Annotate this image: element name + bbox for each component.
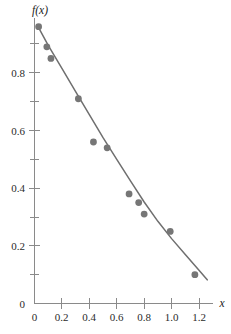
- x-axis-title: x: [218, 297, 225, 309]
- data-point: [90, 139, 97, 146]
- y-tick-label-0.8: 0.8: [11, 67, 25, 79]
- data-points-group: [35, 23, 198, 278]
- data-point: [126, 191, 133, 198]
- chart-figure: 0.8 0.6 0.4 0.2 0 0 0.2 0.4 0.6 0.8 1.0 …: [0, 0, 231, 334]
- y-tick-label-0.4: 0.4: [11, 182, 25, 194]
- data-point: [191, 271, 198, 278]
- x-tick-label-0: 0: [32, 311, 38, 323]
- x-tick-label-0.4: 0.4: [82, 311, 96, 323]
- scatter-plot: 0.8 0.6 0.4 0.2 0 0 0.2 0.4 0.6 0.8 1.0 …: [0, 0, 231, 334]
- axes-group: [35, 18, 214, 304]
- data-point: [48, 55, 55, 62]
- data-point: [104, 144, 111, 151]
- data-point: [135, 199, 142, 206]
- data-point: [75, 95, 82, 102]
- data-point: [43, 43, 50, 50]
- y-axis-tick-labels: 0.8 0.6 0.4 0.2 0: [11, 67, 25, 310]
- x-tick-label-0.2: 0.2: [55, 311, 69, 323]
- x-axis-tick-labels: 0 0.2 0.4 0.6 0.8 1.0 1.2: [32, 311, 206, 323]
- y-axis-title: f(x): [32, 4, 48, 17]
- x-tick-label-0.6: 0.6: [110, 311, 124, 323]
- data-point: [167, 228, 174, 235]
- data-point: [141, 211, 148, 218]
- x-tick-label-1.2: 1.2: [192, 311, 206, 323]
- x-tick-label-1.0: 1.0: [165, 311, 179, 323]
- x-tick-label-0.8: 0.8: [137, 311, 151, 323]
- y-tick-label-0.6: 0.6: [11, 125, 25, 137]
- y-tick-label-0: 0: [20, 298, 26, 310]
- y-tick-label-0.2: 0.2: [11, 240, 25, 252]
- fitted-curve: [37, 25, 207, 280]
- data-point: [35, 23, 42, 30]
